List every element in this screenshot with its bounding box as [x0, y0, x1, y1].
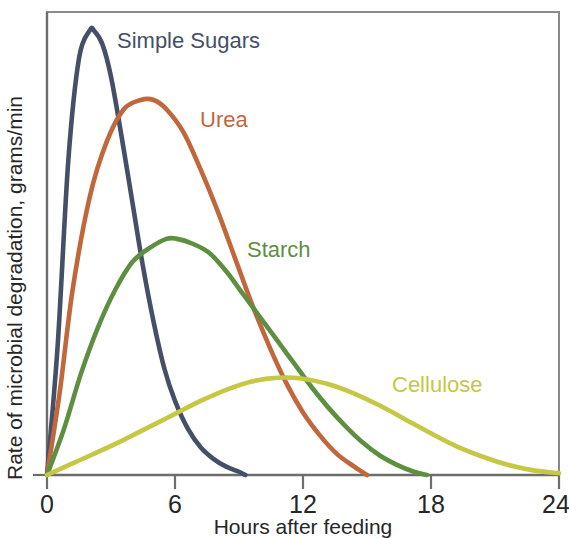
y-axis-title: Rate of microbial degradation, grams/min: [3, 96, 26, 480]
x-tick-label-6: 6: [168, 490, 182, 518]
series-label-starch: Starch: [247, 237, 311, 262]
x-axis-title: Hours after feeding: [214, 515, 393, 538]
x-tick-label-18: 18: [417, 490, 445, 518]
degradation-rate-line-chart: 0 6 12 18 24 Hours after feeding Rate of…: [0, 0, 569, 538]
curve-starch: [47, 238, 427, 475]
x-tick-label-12: 12: [289, 490, 317, 518]
series-labels: Simple SugarsUreaStarchCellulose: [117, 28, 483, 397]
chart-figure: 0 6 12 18 24 Hours after feeding Rate of…: [0, 0, 569, 538]
x-tick-label-0: 0: [40, 490, 54, 518]
series-label-simple-sugars: Simple Sugars: [117, 28, 260, 53]
series-label-cellulose: Cellulose: [392, 372, 483, 397]
series-label-urea: Urea: [200, 107, 248, 132]
x-axis-ticks: [47, 475, 559, 489]
x-tick-label-24: 24: [542, 490, 569, 518]
curve-urea: [47, 99, 367, 475]
